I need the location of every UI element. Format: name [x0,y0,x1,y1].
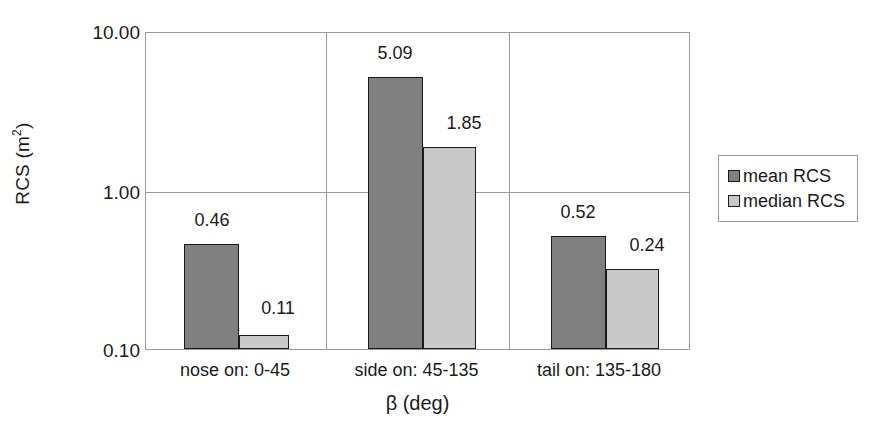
bar-median-side-on[interactable] [423,147,476,349]
bar-label-mean-side-on: 5.09 [355,44,435,62]
y-tick-label-10: 10.00 [44,23,140,42]
bar-median-tail-on[interactable] [606,269,659,349]
chart-figure: RCS (m2) 10.00 1.00 0.10 0.46 0.11 5.09 … [0,0,891,436]
legend-label-mean-rcs: mean RCS [743,167,831,185]
category-separator-1 [326,33,327,349]
bar-label-mean-nose-on: 0.46 [172,211,252,229]
legend-swatch-median-icon [728,195,740,207]
y-axis-tick-labels: 10.00 1.00 0.10 [36,0,140,436]
bar-mean-side-on[interactable] [368,77,423,349]
bar-label-mean-tail-on: 0.52 [538,203,618,221]
bar-mean-nose-on[interactable] [184,244,239,349]
plot-area: 0.46 0.11 5.09 1.85 0.52 0.24 [145,32,690,350]
chart-legend: mean RCS median RCS [718,155,858,222]
bar-label-median-side-on: 1.85 [424,114,504,132]
legend-item-median-rcs[interactable]: median RCS [728,188,845,213]
bar-median-nose-on[interactable] [239,335,289,349]
category-label-side-on: side on: 45-135 [325,360,508,380]
legend-label-median-rcs: median RCS [743,192,845,210]
y-tick-label-1: 1.00 [44,183,140,202]
category-separator-2 [509,33,510,349]
legend-swatch-mean-icon [728,170,740,182]
legend-item-mean-rcs[interactable]: mean RCS [728,163,845,188]
y-axis-title-close: ) [12,123,33,130]
y-tick-label-0-1: 0.10 [44,341,140,360]
bar-label-median-nose-on: 0.11 [238,299,318,317]
y-axis-title-superscript: 2 [10,129,24,136]
category-label-nose-on: nose on: 0-45 [145,360,325,380]
bar-label-median-tail-on: 0.24 [607,236,687,254]
category-label-tail-on: tail on: 135-180 [508,360,690,380]
bar-mean-tail-on[interactable] [551,236,606,349]
y-axis-title-text: RCS (m [12,136,33,205]
y-axis-title: RCS (m2) [10,104,33,224]
x-axis-title: β (deg) [145,392,690,415]
